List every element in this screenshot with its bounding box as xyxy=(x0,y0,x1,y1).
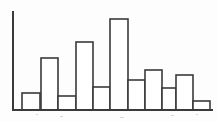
histogram-bar xyxy=(22,93,40,110)
histogram-figure xyxy=(0,0,217,121)
histogram-bar xyxy=(58,96,76,110)
histogram-bar xyxy=(41,58,58,110)
histogram-bar xyxy=(110,19,128,110)
histogram-bar xyxy=(145,70,162,110)
histogram-bar xyxy=(162,88,176,110)
histogram-bar xyxy=(193,101,210,110)
paper-specks xyxy=(36,114,198,118)
histogram-bar xyxy=(176,75,193,110)
bars-group xyxy=(22,19,210,110)
histogram-plot-area xyxy=(0,0,217,121)
histogram-bar xyxy=(93,87,110,110)
histogram-bar xyxy=(128,80,145,110)
histogram-bar xyxy=(76,42,93,110)
